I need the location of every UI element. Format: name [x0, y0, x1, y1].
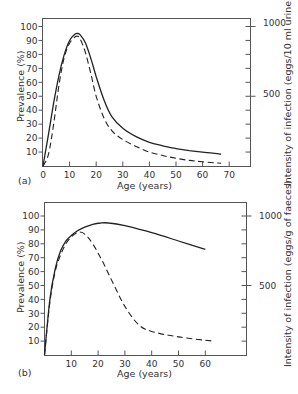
- y-tick-label: 60: [26, 78, 38, 88]
- y-tick-label: 80: [28, 239, 40, 249]
- y-tick-label: 70: [26, 64, 38, 74]
- y-tick-label: 90: [28, 225, 40, 235]
- y-tick-label: 30: [26, 119, 38, 129]
- y-tick-label: 70: [28, 253, 40, 263]
- x-tick-label: 40: [146, 359, 158, 369]
- y2-axis-title-b: Intensity of infection (eggs/g of faeces…: [282, 180, 293, 367]
- x-tick-label: 30: [119, 359, 131, 369]
- x-tick-label: 50: [173, 359, 185, 369]
- y-tick-label: 50: [26, 91, 38, 101]
- intensity-curve-b: [45, 232, 214, 355]
- y-tick-label: 20: [26, 133, 38, 143]
- panel-a: 102030405060708090100 010203040506070 10…: [15, 0, 293, 191]
- x-axis-title-b: Age (years): [117, 368, 172, 379]
- panel-label-a: (a): [18, 175, 31, 186]
- y-tick-label: 80: [26, 50, 38, 60]
- y-tick-label: 90: [26, 36, 38, 46]
- y-axis-title-a: Prevalence (%): [15, 50, 26, 122]
- x-tick-label: 60: [197, 170, 209, 180]
- x-tick-label: 10: [66, 359, 78, 369]
- x-tick-label: 20: [90, 170, 102, 180]
- x-tick-label: 10: [64, 170, 76, 180]
- plot-frame-b: [45, 203, 247, 356]
- y2-label-1000-b: 1000: [259, 211, 282, 221]
- y-tick-label: 100: [22, 211, 39, 221]
- y-axis-title-b: Prevalence (%): [15, 241, 26, 313]
- y-tick-label: 40: [28, 295, 40, 305]
- y-tick-label: 60: [28, 267, 40, 277]
- y-tick-label: 50: [28, 281, 40, 291]
- x-tick-label: 0: [40, 170, 46, 180]
- x-axis-ticks-a: 010203040506070: [40, 162, 235, 180]
- y-tick-label: 30: [28, 309, 40, 319]
- x-tick-label: 60: [200, 359, 212, 369]
- y-tick-label: 100: [20, 22, 37, 32]
- intensity-curve-a: [43, 36, 221, 166]
- y-tick-label: 20: [28, 322, 40, 332]
- panel-label-b: (b): [18, 367, 31, 378]
- panel-b: 102030405060708090100 102030405060 1000 …: [15, 180, 293, 379]
- y-tick-label: 10: [26, 147, 38, 157]
- x-tick-label: 30: [117, 170, 129, 180]
- x-axis-title-a: Age (years): [117, 180, 172, 191]
- x-axis-ticks-b: 102030405060: [66, 351, 212, 369]
- x-tick-label: 40: [144, 170, 156, 180]
- prevalence-curve-b: [45, 223, 206, 355]
- y2-label-500-a: 500: [263, 89, 280, 99]
- x-tick-label: 20: [92, 359, 104, 369]
- y2-axis-title-a: Intensity of infection (eggs/10 ml urine…: [282, 0, 293, 186]
- y2-label-500-b: 500: [259, 281, 276, 291]
- x-tick-label: 70: [223, 170, 235, 180]
- figure: 102030405060708090100 010203040506070 10…: [0, 0, 298, 394]
- prevalence-curve-a: [43, 33, 221, 166]
- plot-frame-a: [43, 19, 251, 167]
- y-tick-label: 40: [26, 105, 38, 115]
- y-tick-label: 10: [28, 336, 40, 346]
- x-tick-label: 50: [170, 170, 182, 180]
